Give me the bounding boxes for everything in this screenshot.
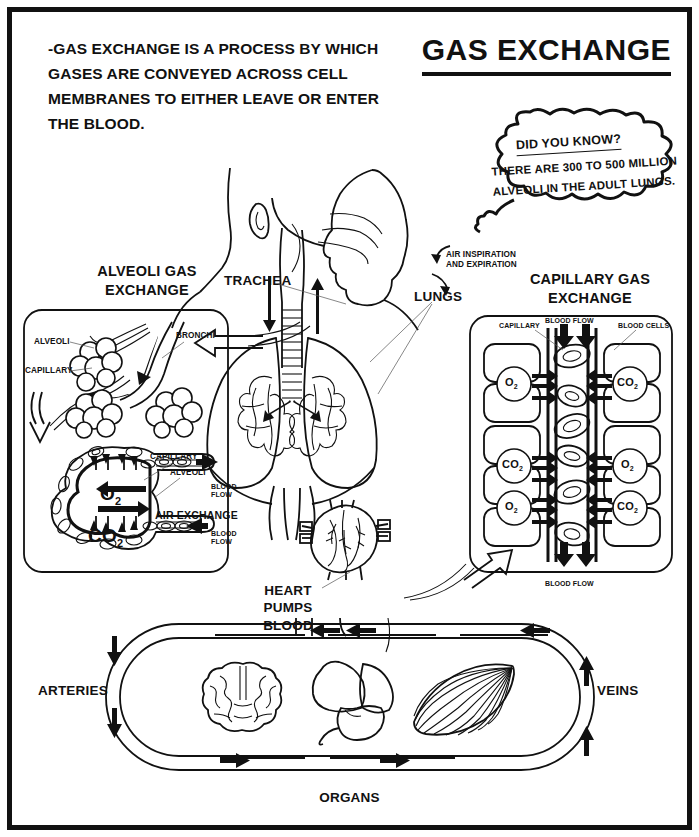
air-flow-label: AIR INSPIRATION AND EXPIRATION (446, 250, 526, 269)
liver-stomach-illustration (305, 652, 400, 744)
brain-illustration (200, 660, 286, 738)
alveoli-pointer-curve (248, 322, 318, 382)
capillary-panel-capillary-leader (535, 330, 565, 352)
capillary-panel-capillary-label: CAPILLARY (499, 322, 540, 330)
bronchi-leader (160, 342, 186, 360)
heart-leader-line (322, 570, 352, 592)
page-title: GAS EXCHANGE (422, 30, 671, 76)
capillary-top-leader (70, 366, 94, 378)
capillary-gas-left-3: O2 (505, 499, 518, 515)
alveolus-capillary-label: CAPILLARY (150, 452, 197, 462)
arteries-label: ARTERIES (38, 682, 108, 700)
air-exchange-label: AIR EXCHANGE (155, 509, 238, 522)
alveoli-zoom-arrow (28, 390, 62, 446)
capillary-gas-right-2: O2 (621, 457, 634, 473)
heart-illustration (300, 500, 390, 580)
blood-cells-label: BLOOD CELLS (618, 322, 669, 330)
gas-exchange-infographic: -GAS EXCHANGE IS A PROCESS BY WHICH GASE… (0, 0, 699, 837)
muscle-illustration (412, 660, 516, 740)
capillary-blood-flow-top-label: BLOOD FLOW (545, 317, 594, 325)
capillary-gas-right-3: CO2 (617, 499, 638, 515)
capillary-gas-left-2: CO2 (502, 457, 523, 473)
capillary-panel-heading: CAPILLARY GAS EXCHANGE (500, 270, 680, 308)
blood-cells-leader (612, 330, 638, 352)
alveolus-co2-label: CO2 (88, 523, 123, 550)
organs-label: ORGANS (0, 789, 699, 807)
capillary-gas-right-1: CO2 (617, 375, 638, 391)
veins-label: VEINS (597, 682, 639, 700)
trachea-leader-line (278, 282, 348, 308)
capillary-exchange-illustration (478, 322, 664, 568)
alveolus-o2-label: O2 (100, 481, 121, 508)
capillary-pointer-curve (404, 548, 484, 600)
alveoli-blood-flow-top-label: BLOOD FLOW (211, 483, 239, 499)
capillary-blood-flow-bottom-label: BLOOD FLOW (545, 580, 594, 588)
capillary-top-label: CAPILLARY (25, 366, 72, 376)
capillary-gas-left-1: O2 (505, 375, 518, 391)
lungs-leader-line (368, 302, 434, 398)
air-flow-arrows (428, 244, 452, 300)
alveoli-top-label: ALVEOLI (34, 337, 70, 347)
alveolus-alveoli-leader (152, 478, 182, 500)
alveoli-blood-flow-bottom-label: BLOOD FLOW (211, 530, 239, 546)
alveoli-top-leader (70, 338, 96, 350)
alveoli-panel-heading: ALVEOLI GAS EXCHANGE (62, 262, 232, 300)
alveolus-alveoli-label: ALVEOLI (170, 468, 206, 478)
intro-text: -GAS EXCHANGE IS A PROCESS BY WHICH GASE… (48, 36, 408, 136)
